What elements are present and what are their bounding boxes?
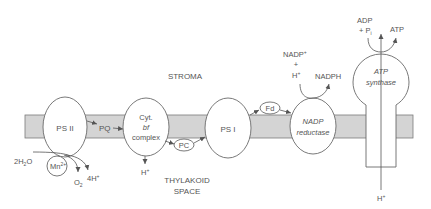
svg-text:complex: complex [132, 133, 160, 142]
plastoquinone-label: PQ [99, 124, 111, 133]
svg-text:PC: PC [179, 141, 190, 150]
svg-text:reductase: reductase [297, 128, 330, 137]
svg-text:ATP: ATP [373, 67, 388, 76]
svg-text:Fd: Fd [266, 104, 275, 113]
manganese-cluster: Mn2+ [47, 156, 67, 176]
plus-sign: + [294, 60, 299, 69]
svg-text:NADP: NADP [303, 117, 324, 126]
adp-to-atp-arrow [368, 38, 396, 52]
water-label: 2H2O [14, 157, 32, 167]
nadp-plus-label: NADP+ [283, 49, 307, 59]
svg-text:Cyt.: Cyt. [139, 113, 152, 122]
svg-text:PS I: PS I [220, 125, 235, 134]
nadp-reductase: NADP reductase [290, 98, 336, 154]
cyt-to-pc-arrow [165, 141, 174, 144]
photosystem-1: PS I [205, 98, 251, 158]
nadph-label: NADPH [315, 72, 341, 81]
svg-text:bf: bf [143, 123, 150, 132]
svg-text:PS II: PS II [56, 124, 73, 133]
plastocyanin: PC [174, 139, 194, 151]
atp-synthase-proton-label: H+ [377, 193, 385, 203]
nadp-to-nadph-arrow [300, 84, 329, 98]
fd-to-nadp-reductase-arrow [280, 110, 291, 113]
thylakoid-electron-transport-diagram: STROMA THYLAKOID SPACE PS II Mn2+ 2H2O O… [0, 0, 431, 209]
atp-label: ATP [390, 25, 404, 34]
h-plus-label: H+ [292, 70, 300, 80]
thylakoid-space-label: THYLAKOID [164, 176, 210, 185]
stroma-label: STROMA [168, 72, 203, 81]
thylakoid-space-label-2: SPACE [174, 187, 201, 196]
phosphate-label: + Pi [359, 26, 372, 36]
o2-label: O2 [74, 178, 83, 188]
ferredoxin: Fd [260, 102, 280, 114]
ps1-to-fd-arrow [250, 110, 259, 115]
protons-4-label: 4H+ [87, 173, 100, 183]
photosystem-2: PS II [43, 97, 87, 157]
cyt-proton-label: H+ [141, 167, 149, 177]
adp-label: ADP [357, 16, 372, 25]
cytochrome-bf-complex: Cyt. bf complex [123, 98, 169, 156]
